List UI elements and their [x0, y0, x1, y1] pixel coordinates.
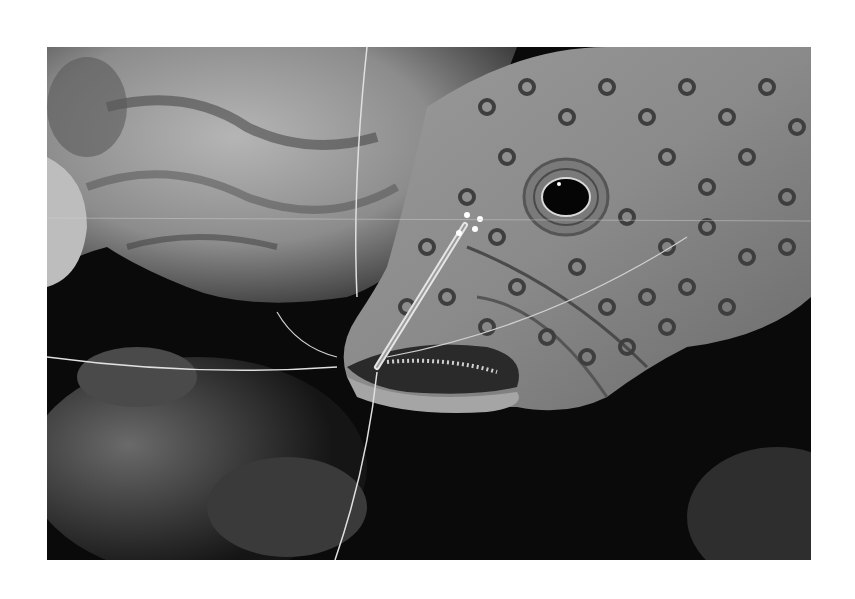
photo	[47, 47, 811, 560]
grouper-photo-illustration	[47, 47, 811, 560]
